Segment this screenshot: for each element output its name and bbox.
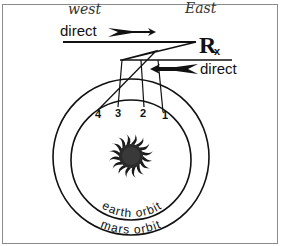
position-2: 2 <box>140 107 146 119</box>
sun-icon <box>108 133 153 178</box>
position-3: 3 <box>115 107 121 119</box>
retrograde-motion-diagram: west East direct R x direct 4 3 2 1 <box>0 0 283 246</box>
position-1: 1 <box>162 109 168 121</box>
direct-label-right: direct <box>200 60 238 77</box>
arrow-right-icon <box>108 28 156 37</box>
retrograde-subscript: x <box>214 45 221 57</box>
retrograde-loop-path <box>98 42 196 110</box>
west-annotation: west <box>68 1 101 17</box>
direct-label-top: direct <box>60 22 98 39</box>
arrow-left-icon <box>150 64 198 74</box>
position-4: 4 <box>95 108 102 120</box>
east-annotation: East <box>184 0 217 16</box>
sight-line-3 <box>118 60 122 107</box>
sight-line-2 <box>141 60 144 107</box>
earth-orbit-label: earth orbit <box>100 198 165 220</box>
